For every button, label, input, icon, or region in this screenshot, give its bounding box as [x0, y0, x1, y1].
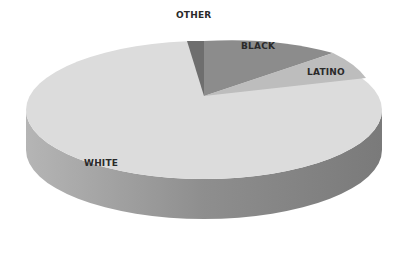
label-other: OTHER — [176, 10, 211, 20]
pie-chart: OTHER BLACK LATINO WHITE — [0, 0, 413, 259]
label-white: WHITE — [84, 158, 118, 168]
label-black: BLACK — [241, 41, 275, 51]
pie-chart-svg — [0, 0, 413, 259]
label-latino: LATINO — [307, 67, 345, 77]
